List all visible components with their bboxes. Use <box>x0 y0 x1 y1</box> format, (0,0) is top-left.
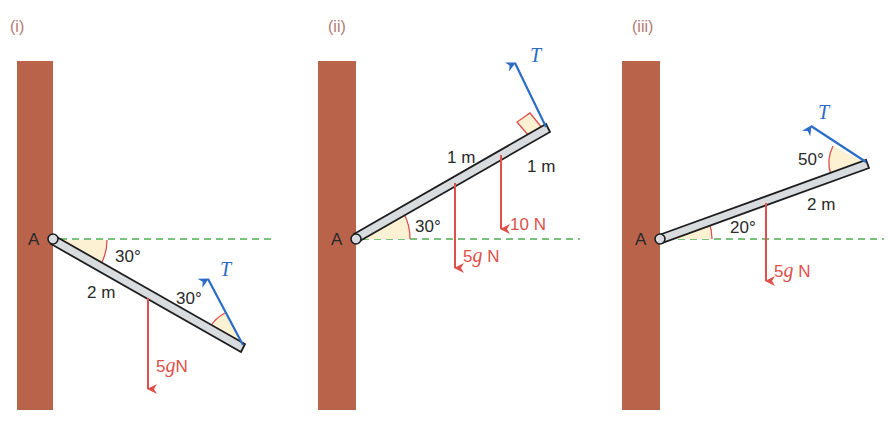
load-force-label: 10 N <box>510 215 546 234</box>
pivot-label: A <box>331 230 343 249</box>
pivot-hinge <box>351 234 361 244</box>
tension-label: T <box>220 258 233 280</box>
panel-label: (iii) <box>632 18 653 35</box>
panel-label: (i) <box>10 18 24 35</box>
rod <box>659 160 869 243</box>
pivot-hinge <box>48 234 58 244</box>
weight-force-label: 5gN <box>156 354 188 377</box>
panel-iii: (iii) A 20° 2 m 50° 5g N T <box>622 18 884 410</box>
weight-force-label: 5g N <box>463 244 499 267</box>
length-label-1: 1 m <box>447 148 475 167</box>
tension-angle-label: 50° <box>798 150 824 169</box>
tension-label: T <box>530 44 543 66</box>
length-label: 2 m <box>807 195 835 214</box>
rod-angle-label: 20° <box>730 218 756 237</box>
length-label: 2 m <box>87 283 115 302</box>
pivot-label: A <box>635 230 647 249</box>
pivot-label: A <box>28 230 40 249</box>
panel-label: (ii) <box>328 18 346 35</box>
panel-i: (i) A 30° 2 m 30° 5gN T <box>10 18 276 410</box>
length-label-2: 1 m <box>527 157 555 176</box>
diagram-canvas: (i) A 30° 2 m 30° 5gN T (ii) A <box>0 0 893 421</box>
tension-label: T <box>818 101 831 123</box>
rod-angle-label: 30° <box>115 247 141 266</box>
tension-angle-label: 30° <box>176 289 202 308</box>
rod-angle-label: 30° <box>415 217 441 236</box>
weight-force-label: 5g N <box>774 259 810 282</box>
panel-ii: (ii) A 30° 1 m 1 m 5g N 10 N T <box>318 18 580 410</box>
pivot-hinge <box>655 234 665 244</box>
